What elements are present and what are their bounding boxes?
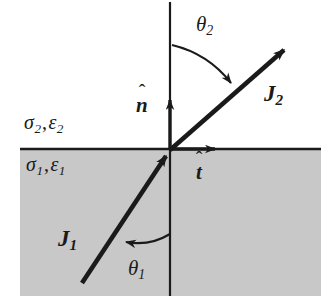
- upper-medium-sigma: σ: [24, 111, 34, 133]
- theta1-symbol: θ: [128, 256, 138, 280]
- theta2-symbol: θ: [196, 12, 206, 36]
- normal-unit-vector-label: ˆn: [136, 95, 148, 116]
- angle-theta2-label: θ2: [196, 14, 213, 38]
- J2-sub: 2: [276, 91, 284, 108]
- lower-medium-label: σ1,ε1: [26, 154, 65, 177]
- tangent-unit-vector-label: ˆt: [196, 162, 202, 183]
- theta2-sub: 2: [206, 23, 213, 38]
- J2-symbol: J: [264, 81, 276, 106]
- diagram-canvas: [0, 0, 328, 304]
- lower-medium-epsilon: ε: [50, 153, 58, 175]
- upper-medium-sigma-sub: 2: [34, 121, 41, 136]
- angle-arc-theta2: [172, 45, 231, 83]
- t-hat-accent: ˆ: [196, 150, 203, 170]
- current-density-J1-label: J1: [58, 227, 77, 252]
- J1-sub: 1: [70, 236, 78, 253]
- current-density-J2-label: J2: [264, 82, 283, 107]
- theta1-sub: 1: [138, 267, 145, 282]
- upper-medium-epsilon: ε: [48, 111, 56, 133]
- lower-medium-sigma: σ: [26, 153, 36, 175]
- n-hat-accent: ˆ: [139, 83, 146, 103]
- upper-medium-label: σ2,ε2: [24, 112, 63, 135]
- lower-medium-epsilon-sub: 1: [59, 163, 66, 178]
- J1-symbol: J: [58, 226, 70, 251]
- lower-medium-sigma-sub: 1: [36, 163, 43, 178]
- upper-medium-epsilon-sub: 2: [57, 121, 64, 136]
- refraction-diagram: σ2,ε2 σ1,ε1 J2 J1 θ2 θ1 ˆn ˆt: [0, 0, 328, 304]
- angle-theta1-label: θ1: [128, 258, 145, 282]
